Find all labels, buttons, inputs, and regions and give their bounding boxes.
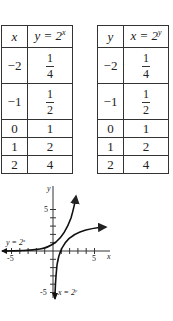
table-row: 0 1 <box>2 120 73 138</box>
table-row: 2 4 <box>98 156 169 174</box>
fraction: 12 <box>46 88 54 117</box>
cell-output: 2 <box>28 138 73 156</box>
cell-output: 12 <box>124 84 169 120</box>
cell-input: −2 <box>98 48 124 84</box>
cell-input: 0 <box>2 120 28 138</box>
table-row: 1 2 <box>2 138 73 156</box>
table-x-equals-2-to-y: y x = 2y −2 14 −1 12 0 1 1 2 2 4 <box>97 25 169 174</box>
exponential-log-graph: y x -5 5 5 -5 y = 2x x = 2y <box>0 180 173 321</box>
cell-input: 1 <box>2 138 28 156</box>
cell-input: −1 <box>98 84 124 120</box>
fraction: 14 <box>46 52 54 81</box>
cell-output: 4 <box>124 156 169 174</box>
curve1-label: y = 2x <box>5 238 26 247</box>
header-x: x <box>2 26 28 48</box>
cell-output: 1 <box>124 120 169 138</box>
table-row: −1 12 <box>98 84 169 120</box>
y-tick-label-5: 5 <box>44 205 48 214</box>
table-y-equals-2-to-x: x y = 2x −2 14 −1 12 0 1 1 2 2 4 <box>1 25 73 174</box>
cell-output: 14 <box>28 48 73 84</box>
y-tick-label-neg5: -5 <box>40 288 47 297</box>
cell-input: 2 <box>98 156 124 174</box>
fraction: 14 <box>142 52 150 81</box>
cell-output: 14 <box>124 48 169 84</box>
cell-output: 12 <box>28 84 73 120</box>
curve2-label: x = 2y <box>57 288 78 297</box>
table-row: 1 2 <box>98 138 169 156</box>
cell-output: 1 <box>28 120 73 138</box>
fraction: 12 <box>142 88 150 117</box>
cell-input: 1 <box>98 138 124 156</box>
cell-input: −1 <box>2 84 28 120</box>
cell-input: −2 <box>2 48 28 84</box>
y-axis-label: y <box>46 184 51 193</box>
header-y-equals-2-to-x: y = 2x <box>28 26 73 48</box>
table-row: −2 14 <box>2 48 73 84</box>
x-tick-label-neg5: -5 <box>7 254 14 263</box>
x-tick-label-5: 5 <box>92 254 96 263</box>
table-row: −1 12 <box>2 84 73 120</box>
table-header-row: x y = 2x <box>2 26 73 48</box>
cell-input: 0 <box>98 120 124 138</box>
table-row: −2 14 <box>98 48 169 84</box>
x-axis-label: x <box>106 252 111 261</box>
header-y: y <box>98 26 124 48</box>
cell-input: 2 <box>2 156 28 174</box>
table-header-row: y x = 2y <box>98 26 169 48</box>
cell-output: 2 <box>124 138 169 156</box>
header-x-equals-2-to-y: x = 2y <box>124 26 169 48</box>
table-row: 0 1 <box>98 120 169 138</box>
cell-output: 4 <box>28 156 73 174</box>
table-row: 2 4 <box>2 156 73 174</box>
